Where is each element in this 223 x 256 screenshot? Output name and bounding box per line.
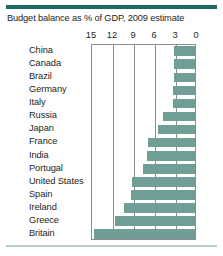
bar-united-states bbox=[132, 177, 195, 187]
category-label-china: China bbox=[10, 44, 87, 57]
bar-china bbox=[174, 46, 195, 56]
category-label-canada: Canada bbox=[10, 57, 87, 70]
bar-row bbox=[92, 45, 195, 58]
bar-spain bbox=[131, 190, 195, 200]
x-tick-label-9: 9 bbox=[130, 30, 135, 41]
category-label-united-states: United States bbox=[10, 175, 87, 188]
x-tick-label-3: 3 bbox=[172, 30, 177, 41]
bar-brazil bbox=[174, 73, 195, 83]
x-tick-label-0: 0 bbox=[193, 30, 198, 41]
bar-row bbox=[92, 110, 195, 123]
x-tick-label-12: 12 bbox=[107, 30, 117, 41]
bar-row bbox=[92, 97, 195, 110]
bar-row bbox=[92, 71, 195, 84]
bar-row bbox=[92, 189, 195, 202]
bar-row bbox=[92, 123, 195, 136]
bar-row bbox=[92, 215, 195, 228]
category-label-britain: Britain bbox=[10, 227, 87, 240]
bar-canada bbox=[174, 59, 195, 69]
x-tick-label-15: 15 bbox=[86, 30, 96, 41]
bar-portugal bbox=[143, 164, 196, 174]
bar-row bbox=[92, 150, 195, 163]
bar-ireland bbox=[124, 203, 195, 213]
bar-italy bbox=[173, 99, 195, 109]
top-rule-decoration bbox=[6, 5, 217, 9]
category-label-france: France bbox=[10, 135, 87, 148]
bar-row bbox=[92, 136, 195, 149]
category-label-russia: Russia bbox=[10, 109, 87, 122]
bar-greece bbox=[115, 216, 195, 226]
category-label-india: India bbox=[10, 149, 87, 162]
x-tick-label-6: 6 bbox=[151, 30, 156, 41]
bar-japan bbox=[158, 125, 195, 135]
bar-row bbox=[92, 176, 195, 189]
category-label-japan: Japan bbox=[10, 122, 87, 135]
bar-russia bbox=[163, 112, 195, 122]
bar-row bbox=[92, 58, 195, 71]
chart-title: Budget balance as % of GDP, 2009 estimat… bbox=[7, 13, 219, 24]
bar-germany bbox=[173, 86, 195, 96]
bar-india bbox=[147, 151, 195, 161]
category-label-germany: Germany bbox=[10, 83, 87, 96]
bar-row bbox=[92, 84, 195, 97]
category-label-greece: Greece bbox=[10, 214, 87, 227]
bar-britain bbox=[94, 229, 195, 239]
bar-france bbox=[148, 138, 195, 148]
category-labels: ChinaCanadaBrazilGermanyItalyRussiaJapan… bbox=[10, 44, 89, 240]
bars-container bbox=[92, 45, 195, 239]
bar-row bbox=[92, 202, 195, 215]
x-axis-tick-labels: 15129630 bbox=[91, 30, 196, 42]
category-label-brazil: Brazil bbox=[10, 70, 87, 83]
bar-row bbox=[92, 163, 195, 176]
bottom-rule-decoration bbox=[6, 245, 217, 247]
chart-card: Budget balance as % of GDP, 2009 estimat… bbox=[0, 0, 223, 256]
category-label-spain: Spain bbox=[10, 188, 87, 201]
category-label-portugal: Portugal bbox=[10, 162, 87, 175]
bar-row bbox=[92, 228, 195, 241]
category-label-ireland: Ireland bbox=[10, 201, 87, 214]
category-label-italy: Italy bbox=[10, 96, 87, 109]
plot-area bbox=[91, 44, 196, 240]
